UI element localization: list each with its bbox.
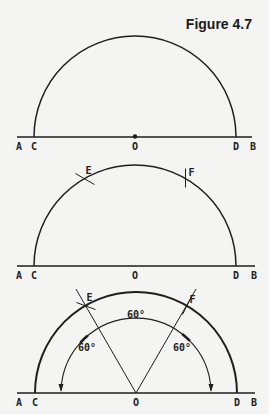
label-b: B xyxy=(250,141,256,152)
angle-label-right: 60° xyxy=(173,342,191,353)
label-o: O xyxy=(132,270,138,281)
label-b: B xyxy=(251,397,257,408)
label-c: C xyxy=(32,397,38,408)
label-d: D xyxy=(234,397,240,408)
label-c: C xyxy=(31,141,37,152)
figure-canvas: Figure 4.7 A C O D B E F A C O D B xyxy=(0,0,269,414)
label-a: A xyxy=(16,141,22,152)
label-e: E xyxy=(86,165,92,176)
label-f: F xyxy=(189,167,195,178)
center-point-o xyxy=(133,134,137,138)
label-f: F xyxy=(190,294,196,305)
label-e: E xyxy=(87,292,93,303)
label-d: D xyxy=(233,141,239,152)
label-b: B xyxy=(251,270,257,281)
label-o: O xyxy=(132,141,138,152)
angle-label-middle: 60° xyxy=(127,309,145,320)
label-a: A xyxy=(16,397,22,408)
label-a: A xyxy=(16,270,22,281)
label-o: O xyxy=(133,397,139,408)
label-d: D xyxy=(233,270,239,281)
figure-title: Figure 4.7 xyxy=(186,16,252,32)
label-c: C xyxy=(31,270,37,281)
angle-label-left: 60° xyxy=(78,342,96,353)
